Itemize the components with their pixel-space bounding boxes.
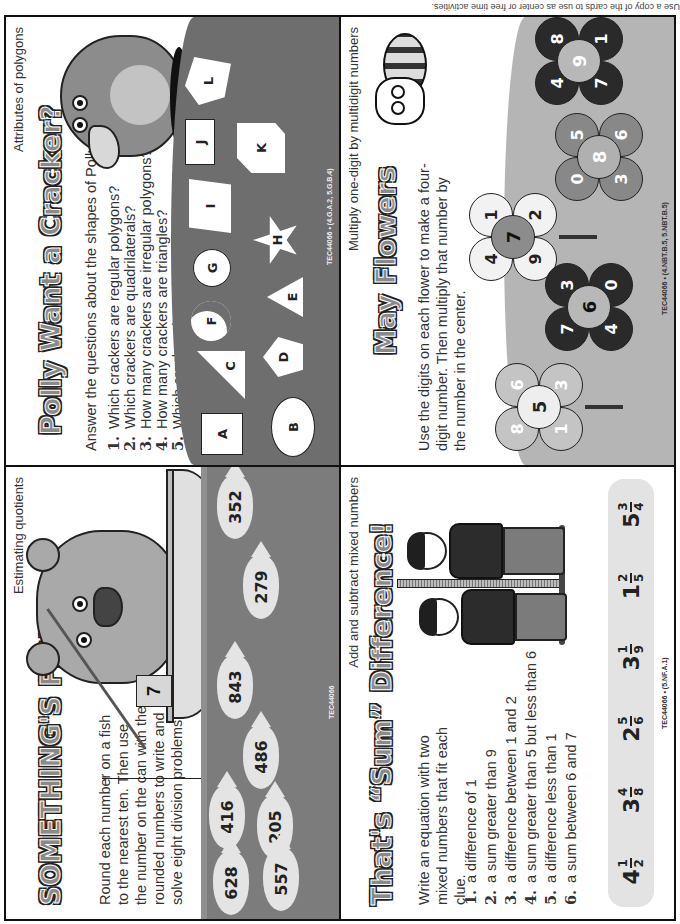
clue-item: 3.a difference between 1 and 2 [501, 651, 521, 905]
clue-item: 1.a difference of 1 [461, 651, 481, 905]
card-instructions: Round each number on a fish to the neare… [96, 705, 186, 905]
cracker-l: L [185, 57, 231, 105]
bee-icon [369, 33, 439, 125]
card-polly-want-a-cracker: Attributes of polygons Polly Want a Crac… [6, 17, 341, 465]
fish-icon: 628 [213, 851, 249, 915]
clue-item: 6.a sum between 6 and 7 [561, 651, 581, 905]
card-instructions: Use the digits on each flower to make a … [415, 161, 469, 451]
page-caption-text: Use a copy of the cards to use as center… [420, 0, 680, 12]
mixed-number: 256 [617, 716, 645, 742]
mixed-number: 319 [617, 644, 645, 670]
bear-icon [36, 530, 180, 684]
boy-icon [407, 523, 565, 579]
cracker-ground: A B C D E F G H I J K L TEC44066 • (4.G.… [171, 17, 339, 465]
cracker-k: K [237, 123, 285, 173]
mixed-number: 348 [617, 787, 645, 813]
product-code: TEC44066 [328, 686, 335, 719]
flower-center-6: 7 3 0 4 6 [541, 259, 637, 355]
cracker-j: J [185, 119, 215, 165]
fish-icon: 843 [217, 655, 253, 719]
product-code: TEC44066 • (4.NBT.B.5, 5.NBT.B.5) [661, 202, 668, 315]
flower-center-9: 4 8 1 7 9 [531, 17, 627, 109]
flower-center-5: 8 6 3 1 5 [491, 359, 587, 455]
card-may-flowers: Multiply one-digit by multidigit numbers… [341, 17, 674, 465]
mixed-number: 534 [617, 502, 645, 528]
mixed-number-strip: 412 348 256 319 125 534 [608, 479, 654, 907]
fish-icon: 486 [243, 725, 279, 789]
skill-label: Attributes of polygons [11, 27, 26, 152]
cracker-i: I [189, 179, 231, 233]
clue-item: 2.a sum greater than 9 [481, 651, 501, 905]
cracker-h: H [253, 215, 301, 265]
cracker-d: D [263, 337, 303, 377]
worm-can-icon: 7 [136, 675, 172, 707]
clue-list: 1.a difference of 1 2.a sum greater than… [461, 651, 581, 905]
cracker-e: E [267, 277, 303, 317]
fish-icon: 557 [263, 847, 299, 911]
parrot-icon [60, 35, 182, 157]
product-code: TEC44066 • (5.NF.A.1) [661, 657, 668, 729]
card-sheet: Estimating quotients SOMETHING'S FISHY R… [4, 15, 676, 921]
height-ruler-icon [397, 579, 563, 588]
cracker-b: B [271, 397, 315, 457]
clue-item: 5.a difference less than 1 [541, 651, 561, 905]
cracker-a: A [201, 413, 243, 455]
boys-measuring-icon [397, 485, 577, 685]
skill-label: Estimating quotients [11, 477, 26, 594]
worksheet-page: Use a copy of the cards to use as center… [0, 0, 680, 924]
flower-center-8: 0 5 6 3 8 [551, 109, 647, 205]
clue-item: 4.a sum greater than 5 but less than 6 [521, 651, 541, 905]
card-title: That's “Sum” Difference! [367, 522, 397, 905]
product-code: TEC44066 • (4.G.A.2, 5.G.B.4) [326, 168, 333, 265]
question-item: 3.How many crackers are irregular polygo… [138, 149, 154, 451]
mixed-number: 412 [617, 858, 645, 884]
card-title: Polly Want a Cracker? [36, 105, 66, 435]
cracker-f: F [191, 301, 231, 341]
cracker-g: G [193, 249, 231, 287]
fish-icon: 352 [217, 475, 253, 539]
skill-label: Add and subtract mixed numbers [346, 477, 361, 668]
cracker-c: C [197, 351, 245, 399]
card-sum-difference: Add and subtract mixed numbers That's “S… [341, 465, 674, 919]
fish-icon: 279 [243, 555, 279, 619]
water-area: 352 279 843 486 205 416 557 628 TEC44066 [201, 467, 339, 919]
question-item: 4.How many crackers are triangles? [154, 149, 170, 451]
boy-icon [419, 589, 567, 645]
page-caption: Use a copy of the cards to use as center… [0, 0, 680, 12]
card-somethings-fishy: Estimating quotients SOMETHING'S FISHY R… [6, 465, 341, 919]
skill-label: Multiply one-digit by multidigit numbers [346, 27, 361, 251]
card-title: May Flowers [371, 166, 401, 355]
mixed-number: 125 [617, 573, 645, 599]
question-item: 2.Which crackers are quadrilaterals? [122, 149, 138, 451]
question-item: 1.Which crackers are regular polygons? [106, 149, 122, 451]
